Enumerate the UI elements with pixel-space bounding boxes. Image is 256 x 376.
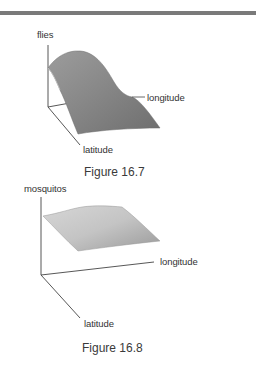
flies-surface (48, 51, 160, 134)
mosquitos-axis-label: mosquitos (24, 183, 66, 194)
figure-16-8-plot (41, 197, 160, 318)
figure-caption: Figure 16.8 (82, 341, 143, 355)
longitude-axis (41, 262, 154, 275)
figure-16-7-plot (48, 45, 160, 145)
mosquitos-surface (43, 206, 160, 251)
latitude-axis-label: latitude (83, 144, 113, 155)
figure-caption: Figure 16.7 (84, 165, 145, 179)
latitude-axis (41, 275, 80, 318)
longitude-axis-label: longitude (147, 92, 185, 103)
flies-axis-label: flies (37, 29, 53, 40)
latitude-axis-label: latitude (84, 318, 114, 329)
longitude-axis-label: longitude (160, 256, 198, 267)
